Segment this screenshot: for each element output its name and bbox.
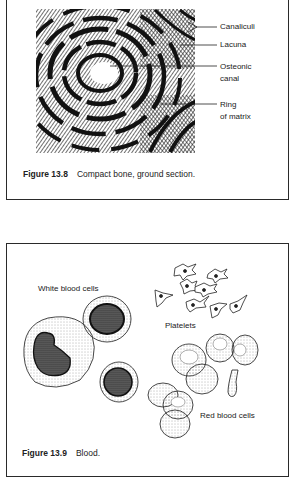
red-blood-cells xyxy=(148,334,258,438)
blood-cells-illustration xyxy=(0,0,295,479)
label-white-blood-cells: White blood cells xyxy=(38,283,98,294)
figure-13-9-caption: Figure 13.9Blood. xyxy=(22,448,100,458)
caption-text: Blood. xyxy=(76,448,100,458)
white-blood-cell-small xyxy=(100,362,138,402)
white-blood-cell-top xyxy=(83,296,131,342)
figure-number: Figure 13.9 xyxy=(22,448,67,458)
platelets xyxy=(155,264,247,318)
white-blood-cell-large xyxy=(24,317,94,387)
label-platelets: Platelets xyxy=(165,320,196,331)
label-red-blood-cells: Red blood cells xyxy=(200,410,255,421)
